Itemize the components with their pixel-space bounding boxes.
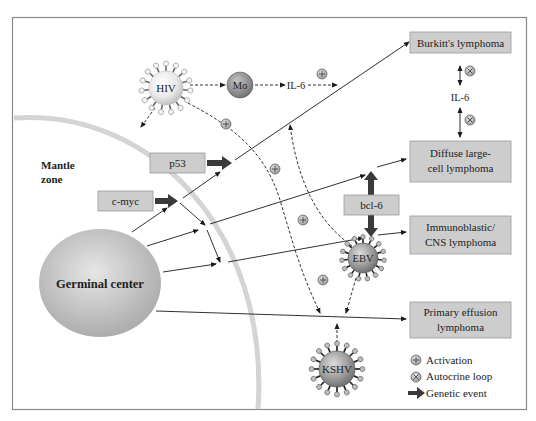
- p53-box: p53: [150, 153, 205, 173]
- burkitt-lymphoma-label: Burkitt's lymphoma: [417, 37, 504, 49]
- kshv-virus: KSHV: [309, 341, 365, 397]
- cmyc-box: c-myc: [98, 191, 153, 211]
- primary-effusion-label-line1: Primary effusion: [423, 306, 498, 318]
- ebv-label: EBV: [353, 253, 374, 264]
- hiv-label: HIV: [156, 82, 176, 94]
- monocyte-label: Mo: [233, 80, 248, 91]
- immunoblastic-label-line1: Immunoblastic/: [426, 221, 496, 233]
- kshv-label: KSHV: [322, 363, 352, 375]
- activation-icon: [317, 69, 327, 79]
- p53-label: p53: [169, 157, 186, 169]
- germinal-center-label: Germinal center: [56, 277, 144, 291]
- activation-icon: [411, 355, 421, 365]
- legend-label-activation: Activation: [426, 354, 473, 366]
- diffuse-lymphoma-label-line1: Diffuse large-: [430, 147, 491, 159]
- legend-label-genetic-event: Genetic event: [426, 387, 487, 399]
- mantle-zone-label-line1: Mantle: [41, 159, 75, 171]
- immunoblastic-label-line2: CNS lymphoma: [425, 236, 496, 248]
- monocyte-cell: Mo: [227, 72, 253, 98]
- burkitt-lymphoma-box: Burkitt's lymphoma: [410, 32, 511, 53]
- legend-label-autocrine-loop: Autocrine loop: [426, 370, 493, 382]
- germinal-center: Germinal center: [39, 229, 161, 337]
- cmyc-label: c-myc: [112, 195, 140, 207]
- immunoblastic-cns-lymphoma-box: Immunoblastic/ CNS lymphoma: [410, 216, 511, 254]
- primary-effusion-label-line2: lymphoma: [437, 321, 484, 333]
- autocrine-loop-icon: [465, 115, 475, 125]
- il6-label-top: IL-6: [287, 80, 306, 91]
- primary-effusion-lymphoma-box: Primary effusion lymphoma: [410, 302, 511, 338]
- mantle-zone-label-line2: zone: [41, 173, 63, 185]
- autocrine-loop-icon: [411, 372, 421, 382]
- bcl6-box: bcl-6: [344, 195, 399, 215]
- diffuse-lymphoma-label-line2: cell lymphoma: [428, 162, 494, 174]
- il6-label-right: IL-6: [451, 92, 470, 103]
- figure-frame: [13, 18, 527, 410]
- bcl6-label: bcl-6: [360, 199, 383, 211]
- autocrine-loop-icon: [465, 66, 475, 76]
- activation-icon: [318, 275, 328, 285]
- activation-icon: [221, 119, 231, 129]
- activation-icon: [298, 215, 308, 225]
- lymphoma-pathogenesis-diagram: Mantle zone Germinal center: [0, 0, 536, 421]
- activation-icon: [270, 164, 280, 174]
- diffuse-large-cell-lymphoma-box: Diffuse large- cell lymphoma: [410, 141, 511, 182]
